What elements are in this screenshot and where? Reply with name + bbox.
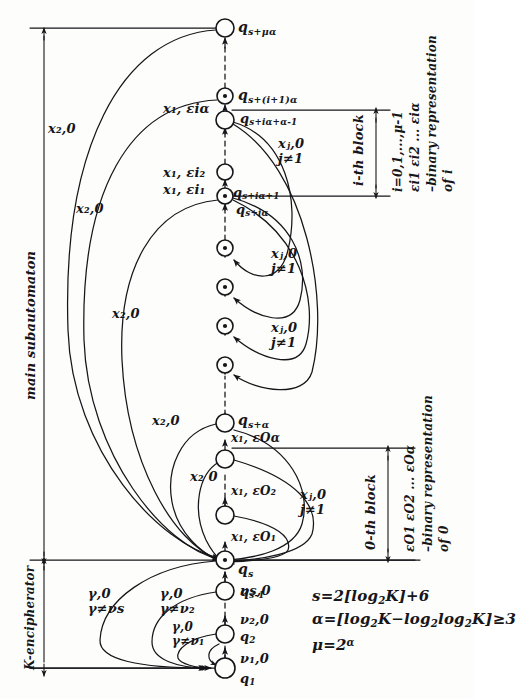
state-node[interactable] (215, 658, 235, 678)
edge-label-gamma-nu1: γ,0 γ≠ν₁ (172, 620, 204, 648)
state-node-marker-dot (223, 194, 227, 198)
block-label-zero-binary-note: –binary representation (422, 395, 435, 552)
edge-label-xj-0-line1: xⱼ,0 (271, 246, 297, 261)
edge-label-xj-0-line1: xⱼ,0 (300, 487, 326, 502)
formula-alpha: α=[log2K−log2log2K]≥3 (312, 612, 516, 629)
state-label-q-s-ia-p1: qs+iα+1 (233, 186, 280, 202)
state-node[interactable] (216, 625, 234, 643)
state-label-q-s-i1-alpha: qs+(i+1)α (238, 88, 297, 105)
arc-x2-0-fourth (171, 424, 219, 561)
edge-label-x1-eia: x₁, εiα (163, 102, 210, 116)
state-label-q-1: q1 (240, 672, 256, 688)
edge-label-xj-0-group-3: xⱼ,0 j≠1 (271, 320, 297, 351)
edge-label-x2-0-fourth: x₂,0 (152, 414, 180, 428)
state-label-q-s-ia-alpha-m1: qs+iα+α-1 (240, 112, 297, 128)
edge-label-gamma-nu2: γ,0 γ≠ν₂ (160, 586, 195, 617)
edge-label-j-ne-1-line2: j≠1 (271, 261, 297, 276)
formula-mu-text: μ=2α (312, 636, 355, 654)
edge-label-j-ne-1-line2: j≠1 (300, 502, 326, 517)
state-node-marker-dot (223, 324, 227, 328)
state-node[interactable] (216, 582, 234, 600)
edge-label-nu-1-0: ν₁,0 (240, 652, 269, 666)
state-label-q-s-alpha: qs+α (238, 413, 269, 430)
edge-label-gamma-0: γ,0 (160, 586, 195, 601)
block-label-i-range: i=0,1,...,μ-1 (392, 111, 405, 192)
edge-label-gamma-nus: γ,0 γ≠νs (88, 586, 125, 617)
formula-mu: μ=2α (312, 637, 355, 654)
state-label-q-s-ia: qs+iα (236, 203, 269, 219)
edge-label-x1-ei2: x₁, εi₂ (163, 166, 205, 180)
edge-label-gamma-0: γ,0 (172, 620, 204, 634)
state-node-marker-dot (223, 94, 227, 98)
state-node-marker-dot (223, 246, 227, 250)
block-label-i-binary-of: of i (442, 169, 455, 192)
edge-label-x2-0-second: x₂,0 (76, 202, 104, 216)
block-label-zero-th-block: 0-th block (364, 474, 378, 550)
edge-label-x2-0-loop: x₂ 0 (190, 470, 218, 484)
state-node[interactable] (217, 164, 233, 180)
region-label-main-subautomaton: main subautomaton (24, 251, 38, 400)
edge-label-x1-e0a: x₁, εOα (231, 432, 280, 445)
state-label-q-2: q2 (240, 630, 256, 646)
edge-label-xj-0-line1: xⱼ,0 (271, 320, 297, 335)
state-node[interactable] (216, 506, 234, 524)
edge-label-xj-0-group-2: xⱼ,0 j≠1 (271, 246, 297, 277)
region-label-encipherator: K-encipherator (24, 566, 37, 670)
edge-label-j-ne-1-line2: j≠1 (278, 151, 304, 166)
state-node-marker-dot (223, 363, 227, 367)
block-label-i-binary: εi1 εi2 ... εiα (409, 102, 422, 192)
edge-label-xj-0-group-1: xⱼ,0 j≠1 (278, 136, 304, 167)
edge-label-gamma-ne-nus: γ≠νs (88, 601, 125, 616)
edge-label-x2-0-third: x₂,0 (112, 307, 140, 321)
edge-label-gamma-ne-nu1: γ≠ν₁ (172, 634, 204, 648)
block-label-zero-binary: εO1 εO2 ... εOα (404, 445, 417, 552)
formula-alpha-text: α=[log2K−log2log2K]≥3 (312, 610, 516, 628)
state-node-marker-dot (223, 285, 227, 289)
formula-s: s=2[log2K]+6 (312, 589, 429, 606)
edge-label-gamma-ne-nu2: γ≠ν₂ (160, 601, 195, 616)
edge-label-nu-s-0: νs,0 (240, 584, 271, 598)
edge-label-nu-2-0: ν₂,0 (240, 613, 269, 627)
state-label-q-s: qs (238, 562, 254, 579)
edge-label-x1-e02: x₁, εO₂ (231, 485, 276, 498)
state-node-marker-dot (223, 558, 227, 562)
edge-label-x1-e01: x₁, εO₁ (231, 531, 276, 544)
state-node[interactable] (216, 450, 234, 468)
edge-label-xj-0-group-4: xⱼ,0 j≠1 (300, 487, 326, 518)
edge-label-x2-0-outer: x₂,0 (48, 122, 76, 136)
edge-label-gamma-0: γ,0 (88, 586, 125, 601)
state-label-q-s-mu-alpha: qs+μα (238, 20, 276, 37)
state-node[interactable] (216, 19, 234, 37)
edge-label-xj-0-line1: xⱼ,0 (278, 136, 304, 151)
arc-x2-0-third (122, 200, 219, 560)
edge-label-x1-ei1: x₁, εi₁ (163, 183, 205, 197)
edge-label-j-ne-1-line2: j≠1 (271, 335, 297, 350)
block-label-zero-binary-of: of 0 (438, 526, 451, 553)
block-label-i-th-block: i-th block (352, 114, 366, 186)
state-node[interactable] (216, 111, 234, 129)
block-label-i-binary-note: –binary representation (426, 35, 439, 192)
formula-s-text: s=2[log2K]+6 (312, 587, 429, 605)
state-node[interactable] (216, 414, 234, 432)
